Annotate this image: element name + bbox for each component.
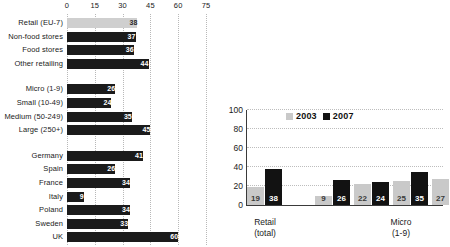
- bar: [67, 232, 178, 242]
- bar-value-label: 27: [432, 194, 449, 203]
- bar-row: Large (250+)45: [67, 125, 206, 135]
- bar-value-label: 26: [107, 84, 115, 94]
- bar-row-label: Germany: [31, 151, 63, 161]
- bar-row: Food stores36: [67, 45, 206, 55]
- y-axis-tick-100: 100: [229, 105, 243, 115]
- x-axis-tick-0: 0: [65, 1, 69, 10]
- bar-row: Sweden33: [67, 219, 206, 229]
- x-axis-category-label: Micro (1-9): [377, 217, 425, 238]
- right-chart-plot-area: 0204060801001938Retail (total)926Micro (…: [246, 110, 443, 206]
- y-axis-tick-40: 40: [234, 162, 243, 172]
- bar-group: 926Micro (1-9): [315, 110, 351, 205]
- bar-row-label: Other retailing: [14, 59, 63, 69]
- bar: [67, 125, 150, 135]
- bar-group: 2535Medium (50- 249): [393, 110, 429, 205]
- bar-group: 2224Small (10-49): [354, 110, 390, 205]
- bar-row: Germany41: [67, 151, 206, 161]
- bar-row-label: Poland: [39, 205, 63, 215]
- bar: [67, 18, 137, 28]
- bar-value-label: 36: [126, 45, 134, 55]
- bar-value-label: 33: [120, 219, 128, 229]
- bar-row-label: Large (250+): [19, 125, 63, 135]
- bar-value-label: 35: [124, 112, 132, 122]
- bar-row: Non-food stores37: [67, 32, 206, 42]
- bar: [67, 112, 132, 122]
- bar-value-label: 45: [142, 125, 150, 135]
- x-axis-tick-75: 75: [202, 1, 211, 10]
- bar: [67, 45, 134, 55]
- bar-row: Medium (50-249)35: [67, 112, 206, 122]
- bar-value-label: 24: [103, 98, 111, 108]
- bar-value-label: 25: [393, 194, 410, 203]
- bar-row-label: Sweden: [35, 219, 63, 229]
- bar-row-label: Small (10-49): [17, 98, 63, 108]
- left-chart-plot-area: Retail (EU-7)38Non-food stores37Food sto…: [67, 14, 206, 245]
- bar-row-label: UK: [52, 232, 63, 242]
- bar-row: Italy9: [67, 192, 206, 202]
- bar-value-label: 34: [122, 205, 130, 215]
- left-bar-chart: 01530456075 Retail (EU-7)38Non-food stor…: [0, 0, 210, 247]
- y-axis-tick-20: 20: [234, 181, 243, 191]
- x-axis-tick-45: 45: [146, 1, 155, 10]
- bar: [67, 178, 130, 188]
- bar: [67, 205, 130, 215]
- bar: [67, 59, 149, 69]
- bar-row: UK60: [67, 232, 206, 242]
- bar-value-label: 24: [372, 194, 389, 203]
- bar-group: 2745Large (250): [432, 110, 450, 205]
- bar-row-label: Spain: [43, 164, 63, 174]
- bar-row: Poland34: [67, 205, 206, 215]
- x-axis-tick-30: 30: [118, 1, 127, 10]
- bar-row-label: France: [39, 178, 63, 188]
- x-axis-tick-15: 15: [90, 1, 99, 10]
- y-axis-tick-0: 0: [238, 200, 243, 210]
- x-axis-tick-60: 60: [174, 1, 183, 10]
- right-bar-chart: 20032007 0204060801001938Retail (total)9…: [216, 100, 450, 247]
- bar-row-label: Medium (50-249): [4, 112, 63, 122]
- bar-value-label: 34: [122, 178, 130, 188]
- bar-row: Spain26: [67, 164, 206, 174]
- left-chart-x-axis: 01530456075: [0, 1, 210, 13]
- y-axis-tick-80: 80: [234, 124, 243, 134]
- bar-value-label: 44: [141, 59, 149, 69]
- bar: [67, 219, 128, 229]
- bar-row-label: Retail (EU-7): [18, 18, 63, 28]
- bar-value-label: 37: [128, 32, 136, 42]
- bar-row: Retail (EU-7)38: [67, 18, 206, 28]
- bar-value-label: 22: [354, 194, 371, 203]
- bar-row-label: Food stores: [22, 45, 63, 55]
- bar-value-label: 26: [333, 194, 350, 203]
- bar: [67, 32, 136, 42]
- bar-row: Small (10-49)24: [67, 98, 206, 108]
- bar-row: Other retailing44: [67, 59, 206, 69]
- bar-row-label: Micro (1-9): [26, 84, 63, 94]
- bar-value-label: 9: [80, 192, 84, 202]
- bar-row-label: Italy: [49, 192, 63, 202]
- gridline-75: [206, 14, 208, 245]
- bar-value-label: 60: [170, 232, 178, 242]
- bar-value-label: 41: [135, 151, 143, 161]
- bar-value-label: 38: [129, 18, 137, 28]
- bar-value-label: 9: [315, 194, 332, 203]
- bar-row: France34: [67, 178, 206, 188]
- bar-row: Micro (1-9)26: [67, 84, 206, 94]
- bar-group: 1938Retail (total): [247, 110, 283, 205]
- bar-value-label: 26: [107, 164, 115, 174]
- bar-value-label: 35: [411, 194, 428, 203]
- y-axis-tick-60: 60: [234, 143, 243, 153]
- bar: [67, 151, 143, 161]
- bar-row-label: Non-food stores: [8, 32, 63, 42]
- bar-value-label: 38: [265, 194, 282, 203]
- x-axis-category-label: Retail (total): [241, 217, 289, 238]
- bar-value-label: 19: [247, 194, 264, 203]
